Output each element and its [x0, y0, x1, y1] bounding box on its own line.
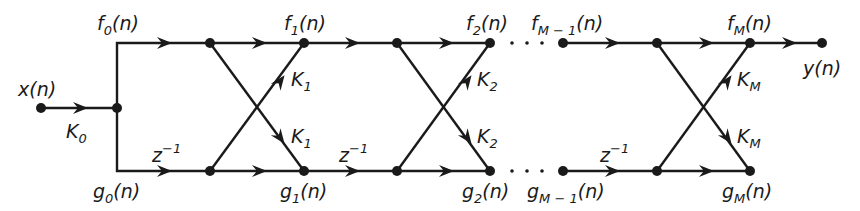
coef-label-bottom: K1: [291, 125, 312, 151]
k0-label: K0: [66, 120, 87, 146]
delay-label: z−1: [599, 141, 629, 166]
input-node[interactable]: [36, 103, 46, 113]
lattice-stage-2: K2 K2: [392, 37, 498, 177]
output-branch: y(n): [750, 37, 841, 79]
node[interactable]: [485, 166, 495, 176]
g2-label: g2(n): [462, 180, 509, 206]
node[interactable]: [205, 38, 215, 48]
link-m1-m: z−1: [558, 37, 657, 177]
lattice-stage-m: KM KM: [652, 37, 761, 177]
node[interactable]: [392, 38, 402, 48]
output-node[interactable]: [817, 38, 827, 48]
link-1-2: z−1: [304, 37, 397, 177]
f0-label: f0(n): [97, 12, 139, 38]
lattice-stage-1: K1 K1: [205, 37, 312, 177]
coef-label-top: KM: [737, 68, 761, 94]
gm-label: gM(n): [722, 180, 772, 206]
lattice-filter-diagram: x(n) K0 z−1 K1 K1 z−1: [0, 0, 860, 211]
coef-label-bottom: KM: [737, 125, 761, 151]
node[interactable]: [485, 38, 495, 48]
delay-label: z−1: [151, 141, 181, 166]
input-label: x(n): [17, 78, 56, 100]
g1-label: g1(n): [280, 180, 327, 206]
node[interactable]: [205, 166, 215, 176]
node[interactable]: [392, 166, 402, 176]
node[interactable]: [558, 166, 568, 176]
ellipsis: [510, 41, 544, 173]
coef-label-top: K1: [291, 68, 312, 94]
input-branch: x(n) K0: [17, 78, 122, 146]
gm1-label: gM − 1(n): [527, 180, 605, 206]
fm-label: fM(n): [727, 12, 772, 38]
node[interactable]: [745, 166, 755, 176]
f1-label: f1(n): [284, 12, 326, 38]
node[interactable]: [558, 38, 568, 48]
coef-label-bottom: K2: [477, 125, 498, 151]
top-labels: f0(n) f1(n) f2(n) fM − 1(n) fM(n): [97, 12, 772, 38]
split-rails: z−1: [117, 37, 210, 177]
delay-label: z−1: [338, 141, 368, 166]
g0-label: g0(n): [93, 180, 140, 206]
output-label: y(n): [802, 57, 841, 79]
coef-label-top: K2: [477, 68, 498, 94]
fm1-label: fM − 1(n): [531, 12, 603, 38]
bottom-labels: g0(n) g1(n) g2(n) gM − 1(n) gM(n): [93, 180, 772, 206]
node[interactable]: [652, 166, 662, 176]
f2-label: f2(n): [466, 12, 508, 38]
node[interactable]: [652, 38, 662, 48]
